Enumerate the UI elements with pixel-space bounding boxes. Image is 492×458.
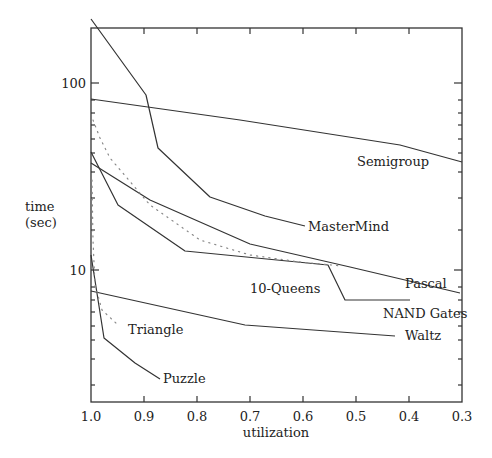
x-tick-label: 0.3	[452, 409, 473, 424]
label-puzzle: Puzzle	[163, 371, 206, 386]
series-puzzle	[91, 255, 160, 379]
y-axis-title-line1: time	[25, 199, 55, 214]
series-triangle	[92, 180, 118, 325]
x-tick-label: 0.7	[240, 409, 261, 424]
x-tick-label: 0.9	[134, 409, 155, 424]
label-mastermind: MasterMind	[308, 219, 389, 234]
x-tick-label: 1.0	[81, 409, 102, 424]
label-triangle: Triangle	[128, 322, 184, 337]
series-mastermind	[91, 19, 305, 226]
y-axis-title-line2: (sec)	[25, 215, 57, 230]
series-pascal	[91, 163, 460, 293]
series-10-queens	[93, 120, 342, 266]
label-pascal: Pascal	[405, 276, 447, 291]
x-tick-label: 0.5	[346, 409, 367, 424]
x-tick-label: 0.8	[187, 409, 208, 424]
bottom-ticks	[144, 396, 409, 402]
y-tick-100: 100	[61, 76, 86, 91]
x-tick-label: 0.6	[293, 409, 314, 424]
x-tick-label: 0.4	[399, 409, 420, 424]
y-tick-10: 10	[69, 263, 86, 278]
left-log-ticks	[91, 83, 99, 385]
x-axis-title: utilization	[243, 425, 310, 440]
label-10-queens: 10-Queens	[250, 281, 320, 296]
label-nand-gates: NAND Gates	[383, 306, 467, 321]
line-chart: 100 10 1.0 0.9 0.8 0.7 0.6 0.5 0.4 0.3 u…	[0, 0, 492, 458]
label-waltz: Waltz	[405, 328, 441, 343]
x-tick-labels: 1.0 0.9 0.8 0.7 0.6 0.5 0.4 0.3	[81, 409, 473, 424]
label-semigroup: Semigroup	[357, 154, 429, 169]
plot-frame	[91, 28, 462, 402]
series-semigroup	[91, 99, 462, 162]
right-log-ticks	[454, 83, 462, 385]
top-ticks	[144, 28, 409, 34]
